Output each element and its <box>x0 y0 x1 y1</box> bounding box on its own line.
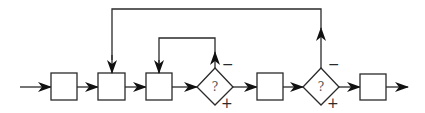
process-box-2 <box>98 73 125 100</box>
process-box-4 <box>257 73 283 100</box>
inner-feedback-loop <box>159 38 215 73</box>
flowchart-diagram: ? − + ? − + <box>0 0 425 113</box>
decision-1-minus-label: − <box>222 56 234 72</box>
decision-2-plus-label: + <box>327 95 339 111</box>
decision-1-plus-label: + <box>221 95 233 111</box>
process-box-1 <box>51 73 77 100</box>
process-box-5 <box>360 74 386 100</box>
decision-1-label: ? <box>212 80 218 94</box>
process-box-3 <box>146 73 172 100</box>
outer-feedback-loop <box>112 9 321 60</box>
decision-2-label: ? <box>318 80 324 94</box>
decision-2-minus-label: − <box>328 56 340 72</box>
